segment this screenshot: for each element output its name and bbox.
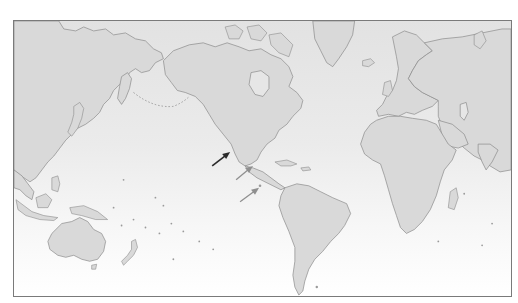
world-map bbox=[13, 20, 512, 297]
galapagos-islands bbox=[259, 185, 262, 188]
landmass-tasmania bbox=[92, 264, 97, 269]
landmass-hispaniola bbox=[301, 167, 311, 171]
landmass-philippines bbox=[52, 176, 60, 192]
map-canvas bbox=[14, 21, 511, 296]
